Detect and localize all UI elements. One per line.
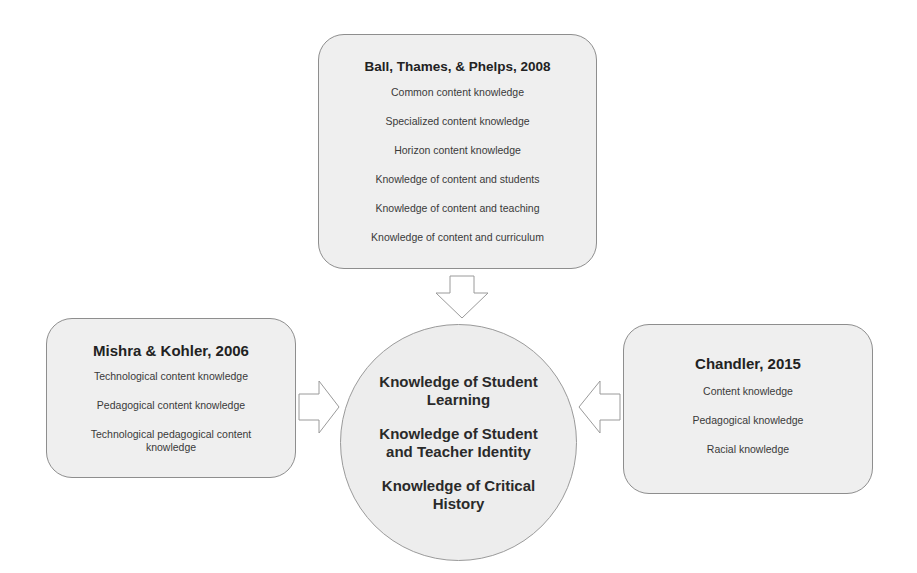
framework-box-ball-thames-phelps: Ball, Thames, & Phelps, 2008 Common cont… [318, 34, 597, 269]
box-item: Common content knowledge [319, 86, 596, 99]
box-title: Chandler, 2015 [624, 355, 872, 372]
framework-box-chandler: Chandler, 2015 Content knowledge Pedagog… [623, 324, 873, 494]
concept-critical-history: Knowledge of Critical History [374, 477, 544, 513]
box-item: Technological pedagogical content knowle… [47, 428, 295, 454]
box-item: Racial knowledge [624, 443, 872, 456]
box-item: Specialized content knowledge [319, 115, 596, 128]
box-item: Knowledge of content and students [319, 173, 596, 186]
arrow-left-icon [578, 380, 621, 434]
arrow-right-icon [298, 380, 340, 434]
arrow-down-icon [435, 275, 489, 319]
framework-box-mishra-kohler: Mishra & Kohler, 2006 Technological cont… [46, 318, 296, 478]
box-item: Knowledge of content and curriculum [319, 231, 596, 244]
box-item: Pedagogical content knowledge [47, 399, 295, 412]
box-title: Mishra & Kohler, 2006 [47, 342, 295, 359]
box-item: Content knowledge [624, 385, 872, 398]
box-item: Technological content knowledge [47, 370, 295, 383]
box-item: Horizon content knowledge [319, 144, 596, 157]
concept-student-learning: Knowledge of Student Learning [374, 373, 544, 409]
box-title: Ball, Thames, & Phelps, 2008 [319, 59, 596, 74]
concept-identity: Knowledge of Student and Teacher Identit… [374, 425, 544, 461]
box-item: Pedagogical knowledge [624, 414, 872, 427]
box-item: Knowledge of content and teaching [319, 202, 596, 215]
center-knowledge-circle: Knowledge of Student Learning Knowledge … [340, 324, 577, 561]
